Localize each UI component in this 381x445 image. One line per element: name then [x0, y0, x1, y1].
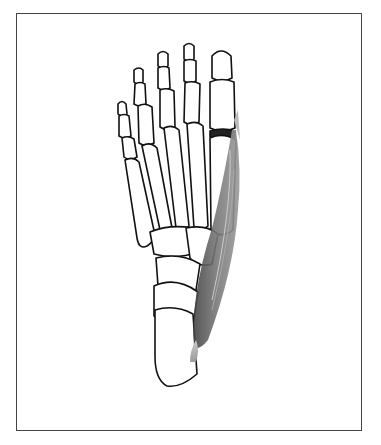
calcaneus	[155, 308, 197, 387]
toe-3-phalanges	[158, 52, 175, 130]
hallux-phalanges	[210, 51, 235, 139]
toe-2-phalanges	[184, 44, 200, 125]
toe-5-phalanges	[118, 102, 137, 160]
foot-skeleton-illustration	[0, 0, 381, 445]
toe-4-phalanges	[134, 68, 154, 146]
